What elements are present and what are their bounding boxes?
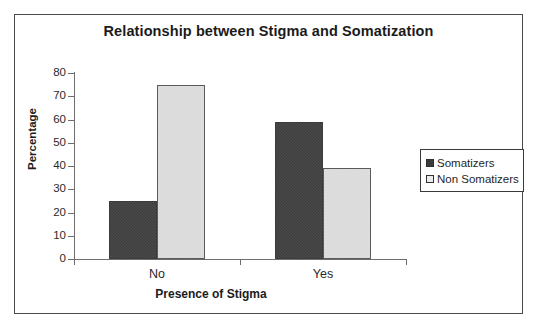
legend-swatch-icon — [426, 175, 434, 183]
x-tick-mark — [74, 259, 75, 265]
y-tick-label: 10 — [22, 229, 66, 241]
y-tick-mark — [68, 189, 74, 190]
y-tick-mark — [68, 236, 74, 237]
legend-item-somatizers[interactable]: Somatizers — [426, 157, 519, 169]
y-tick-label: 20 — [22, 206, 66, 218]
x-tick-mark — [406, 259, 407, 265]
y-tick-mark — [68, 73, 74, 74]
bar-no-non-somatizers — [157, 85, 205, 259]
x-tick-mark — [240, 259, 241, 265]
y-tick-mark — [68, 96, 74, 97]
x-tick-label: Yes — [240, 267, 406, 281]
chart-legend: Somatizers Non Somatizers — [420, 149, 524, 192]
y-tick-mark — [68, 166, 74, 167]
y-axis-title: Percentage — [26, 94, 38, 184]
y-tick-label: 0 — [22, 252, 66, 264]
y-tick-mark — [68, 120, 74, 121]
chart-frame: Relationship between Stigma and Somatiza… — [14, 14, 523, 314]
y-tick-mark — [68, 213, 74, 214]
legend-item-label: Somatizers — [437, 157, 495, 169]
legend-swatch-icon — [426, 159, 434, 167]
bar-yes-somatizers — [275, 122, 323, 259]
x-axis-title: Presence of Stigma — [15, 287, 407, 301]
y-tick-mark — [68, 143, 74, 144]
y-tick-label: 30 — [22, 182, 66, 194]
chart-title: Relationship between Stigma and Somatiza… — [15, 23, 522, 39]
bar-no-somatizers — [109, 201, 157, 259]
x-tick-label: No — [74, 267, 240, 281]
bar-yes-non-somatizers — [323, 168, 371, 259]
legend-item-label: Non Somatizers — [437, 173, 519, 185]
y-tick-label: 80 — [22, 66, 66, 78]
legend-item-non-somatizers[interactable]: Non Somatizers — [426, 173, 519, 185]
y-axis-line — [74, 72, 75, 260]
